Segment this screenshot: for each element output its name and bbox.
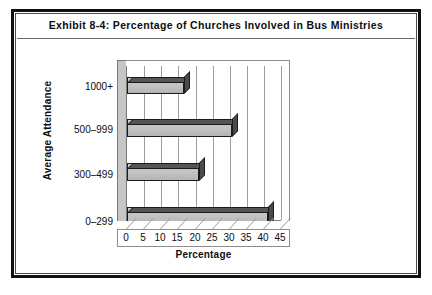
gridline-45 bbox=[281, 66, 282, 220]
bar-top-1000plus bbox=[127, 77, 190, 83]
x-tick-label-5: 5 bbox=[140, 232, 146, 243]
x-tick-label-10: 10 bbox=[154, 232, 165, 243]
bar-side-300-499 bbox=[199, 157, 205, 181]
exhibit-title: Exhibit 8-4: Percentage of Churches Invo… bbox=[14, 12, 418, 38]
gridline-35 bbox=[247, 66, 248, 220]
bar-side-500-999 bbox=[232, 113, 238, 137]
bar-side-1000plus bbox=[184, 71, 190, 94]
gridline-40 bbox=[264, 66, 265, 220]
bar-500-999[interactable] bbox=[127, 119, 232, 137]
gridline-20 bbox=[196, 66, 197, 220]
x-tick-label-25: 25 bbox=[206, 232, 217, 243]
axis-floor bbox=[117, 221, 290, 230]
x-tick-label-35: 35 bbox=[240, 232, 251, 243]
chart-container: Average Attendance 0–299 300–499 500–999… bbox=[17, 39, 415, 272]
x-axis-title: Percentage bbox=[117, 249, 290, 260]
y-tick-label-1000plus: 1000+ bbox=[85, 81, 113, 92]
y-tick-label-300-499: 300–499 bbox=[74, 169, 113, 180]
bar-300-499[interactable] bbox=[127, 163, 199, 181]
x-tick-label-0: 0 bbox=[123, 232, 129, 243]
gridline-25 bbox=[213, 66, 214, 220]
gridline-30 bbox=[230, 66, 231, 220]
bar-1000plus[interactable] bbox=[127, 77, 184, 94]
bar-top-300-499 bbox=[127, 163, 205, 169]
exhibit-frame: Exhibit 8-4: Percentage of Churches Invo… bbox=[11, 9, 421, 278]
x-axis-tick-labels: 0 5 10 15 20 25 30 35 40 45 bbox=[17, 232, 415, 246]
x-tick-label-30: 30 bbox=[223, 232, 234, 243]
bar-top-0-299 bbox=[127, 207, 274, 213]
x-tick-label-15: 15 bbox=[171, 232, 182, 243]
x-tick-label-20: 20 bbox=[189, 232, 200, 243]
y-tick-label-500-999: 500–999 bbox=[74, 124, 113, 135]
x-tick-label-45: 45 bbox=[274, 232, 285, 243]
plot-area bbox=[126, 66, 281, 221]
y-axis-tick-labels: 0–299 300–499 500–999 1000+ bbox=[47, 66, 115, 221]
bar-top-500-999 bbox=[127, 119, 238, 125]
axis-wall-left bbox=[117, 60, 126, 221]
x-tick-label-40: 40 bbox=[257, 232, 268, 243]
y-tick-label-0-299: 0–299 bbox=[85, 216, 113, 227]
